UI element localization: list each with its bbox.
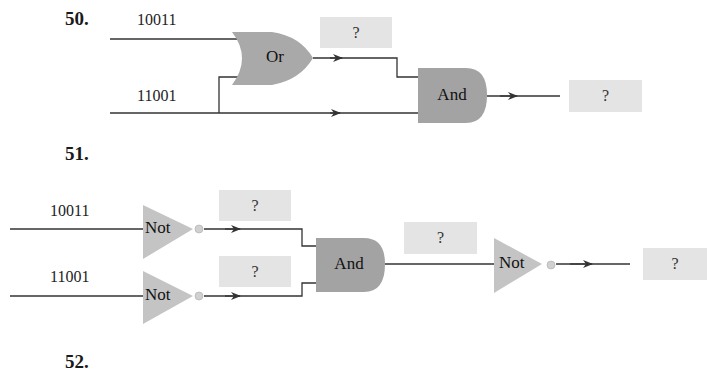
problem-number-50: 50.: [65, 8, 89, 30]
answer-box-or-output[interactable]: ?: [320, 17, 392, 48]
or-gate-label: Or: [258, 47, 292, 67]
answer-box-final[interactable]: ?: [643, 248, 707, 280]
answer-box-and[interactable]: ?: [404, 222, 477, 254]
answer-box-final[interactable]: ?: [569, 80, 642, 112]
input-label-a: 10011: [50, 202, 89, 220]
not-bubble: [195, 225, 203, 233]
not-bubble: [195, 292, 203, 300]
not-bubble: [547, 261, 555, 269]
not-gate-3-label: Not: [499, 253, 539, 273]
input-label-b: 11001: [50, 268, 89, 286]
not-gate-1-label: Not: [145, 218, 185, 238]
problem-number-51: 51.: [65, 143, 89, 165]
input-label-b: 11001: [137, 87, 176, 105]
input-label-a: 10011: [137, 11, 176, 29]
answer-box-not-2[interactable]: ?: [219, 256, 291, 287]
answer-box-not-1[interactable]: ?: [219, 190, 291, 221]
and-gate-label: And: [428, 85, 476, 105]
not-gate-2-label: Not: [145, 285, 185, 305]
and-gate-label: And: [324, 254, 374, 274]
problem-number-52: 52.: [65, 351, 89, 373]
logic-diagram: [0, 0, 707, 384]
